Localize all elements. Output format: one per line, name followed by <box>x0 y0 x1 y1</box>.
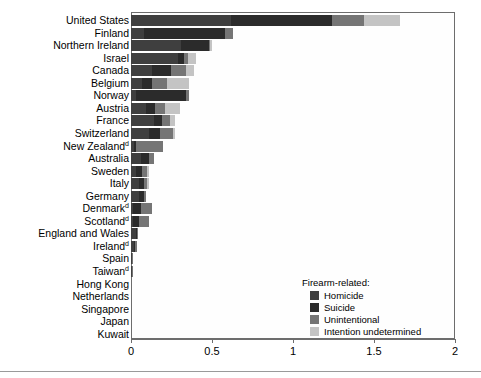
bar-segment-intention-undetermined <box>147 178 149 189</box>
category-label-singapore: Singapore <box>81 303 129 316</box>
bar-segment-intention-undetermined <box>170 115 175 126</box>
legend-item-unintentional: Unintentional <box>302 314 452 325</box>
x-axis-tick-label: 1 <box>290 345 296 357</box>
bar-segment-intention-undetermined <box>173 128 175 139</box>
stacked-bar <box>131 178 149 189</box>
x-axis-tick-label: 2 <box>452 345 458 357</box>
category-label-hong-kong: Hong Kong <box>76 278 129 291</box>
bar-segment-unintentional <box>144 191 146 202</box>
firearm-death-rate-bar-chart: United StatesFinlandNorthern IrelandIsra… <box>0 0 481 378</box>
bar-segment-intention-undetermined <box>364 15 400 26</box>
category-label-denmark: Denmarkd <box>82 202 129 215</box>
category-label-australia: Australia <box>88 152 129 165</box>
x-axis-tick <box>374 339 375 343</box>
legend-item-suicide: Suicide <box>302 302 452 313</box>
footnote-marker: d <box>125 202 129 209</box>
bar-row: Spain <box>0 252 481 265</box>
bar-segment-suicide <box>133 203 141 214</box>
bar-row: Sweden <box>0 165 481 178</box>
stacked-bar <box>131 191 146 202</box>
bar-row: Finland <box>0 27 481 40</box>
bar-segment-intention-undetermined <box>210 40 212 51</box>
bar-segment-unintentional <box>152 78 167 89</box>
bar-segment-homicide <box>131 15 231 26</box>
category-label-austria: Austria <box>96 102 129 115</box>
stacked-bar <box>131 216 149 227</box>
bar-segment-intention-undetermined <box>165 103 180 114</box>
stacked-bar <box>131 40 212 51</box>
stacked-bar <box>131 103 180 114</box>
bar-row: Irelandd <box>0 240 481 253</box>
category-label-finland: Finland <box>95 27 129 40</box>
x-axis-tick-label: 0.5 <box>204 345 219 357</box>
stacked-bar <box>131 90 189 101</box>
bar-row: England and Wales <box>0 227 481 240</box>
stacked-bar <box>131 115 175 126</box>
bar-segment-homicide <box>131 103 146 114</box>
stacked-bar <box>131 241 137 252</box>
legend-item-label: Suicide <box>324 302 355 313</box>
category-label-switzerland: Switzerland <box>75 127 129 140</box>
bar-segment-unintentional <box>171 65 186 76</box>
bar-segment-homicide <box>131 65 152 76</box>
bar-row: Denmarkd <box>0 202 481 215</box>
category-label-new-zealand: New Zealandd <box>63 140 129 153</box>
bar-segment-unintentional <box>155 103 165 114</box>
bar-segment-suicide <box>231 15 331 26</box>
bar-row: Austria <box>0 102 481 115</box>
legend-swatch-icon <box>310 291 319 300</box>
x-axis-tick <box>131 339 132 343</box>
category-label-germany: Germany <box>86 190 129 203</box>
category-label-sweden: Sweden <box>91 165 129 178</box>
stacked-bar <box>131 203 152 214</box>
bar-segment-suicide <box>136 90 186 101</box>
category-label-united-states: United States <box>66 14 129 27</box>
legend-items: HomicideSuicideUnintentionalIntention un… <box>302 290 452 337</box>
x-axis-tick-label: 1.5 <box>366 345 381 357</box>
bar-segment-unintentional <box>186 90 189 101</box>
legend-item-intention-undetermined: Intention undetermined <box>302 326 452 337</box>
bar-segment-unintentional <box>149 153 154 164</box>
bar-row: Belgium <box>0 77 481 90</box>
bar-segment-intention-undetermined <box>186 65 194 76</box>
legend-swatch-icon <box>310 327 319 336</box>
bar-row: France <box>0 114 481 127</box>
stacked-bar <box>131 53 196 64</box>
figure-bottom-rule <box>0 371 481 372</box>
category-label-netherlands: Netherlands <box>72 290 129 303</box>
category-label-canada: Canada <box>92 64 129 77</box>
x-axis-tick-label: 0 <box>128 345 134 357</box>
x-axis-tick <box>455 339 456 343</box>
stacked-bar <box>131 28 233 39</box>
bar-row: Australia <box>0 152 481 165</box>
category-label-ireland: Irelandd <box>93 240 129 253</box>
stacked-bar <box>131 78 189 89</box>
bar-segment-homicide <box>131 153 141 164</box>
bar-segment-intention-undetermined <box>147 166 149 177</box>
category-label-scotland: Scotlandd <box>84 215 129 228</box>
stacked-bar <box>131 266 133 277</box>
bar-row: Germany <box>0 190 481 203</box>
footnote-marker: d <box>125 265 129 272</box>
bar-row: Canada <box>0 64 481 77</box>
bar-segment-unintentional <box>132 266 133 277</box>
legend: Firearm-related: HomicideSuicideUnintent… <box>302 277 452 338</box>
bar-segment-suicide <box>152 65 171 76</box>
bar-row: Israel <box>0 52 481 65</box>
bar-segment-homicide <box>131 53 178 64</box>
stacked-bar <box>131 166 149 177</box>
category-label-japan: Japan <box>100 315 129 328</box>
stacked-bar <box>131 15 400 26</box>
bar-segment-homicide <box>131 191 139 202</box>
stacked-bar <box>131 141 163 152</box>
bar-segment-homicide <box>131 178 139 189</box>
bar-segment-suicide <box>141 153 149 164</box>
legend-item-homicide: Homicide <box>302 290 452 301</box>
footnote-marker: d <box>125 239 129 246</box>
stacked-bar <box>131 153 154 164</box>
stacked-bar <box>131 65 194 76</box>
bar-segment-suicide <box>154 115 162 126</box>
bar-segment-homicide <box>131 78 142 89</box>
bar-row: Switzerland <box>0 127 481 140</box>
stacked-bar <box>131 253 133 264</box>
